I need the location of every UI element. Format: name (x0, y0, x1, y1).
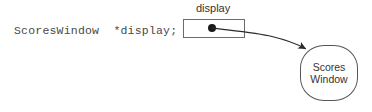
pointer-dot-icon (208, 24, 216, 32)
pointer-variable-label: display (196, 2, 230, 15)
diagram-canvas: ScoresWindow *display; display Scores Wi… (0, 0, 372, 112)
code-declaration-text: ScoresWindow *display; (14, 24, 177, 38)
target-object-line1: Scores (313, 61, 346, 74)
target-object-node: Scores Window (300, 45, 358, 101)
target-object-line2: Window (310, 73, 347, 86)
